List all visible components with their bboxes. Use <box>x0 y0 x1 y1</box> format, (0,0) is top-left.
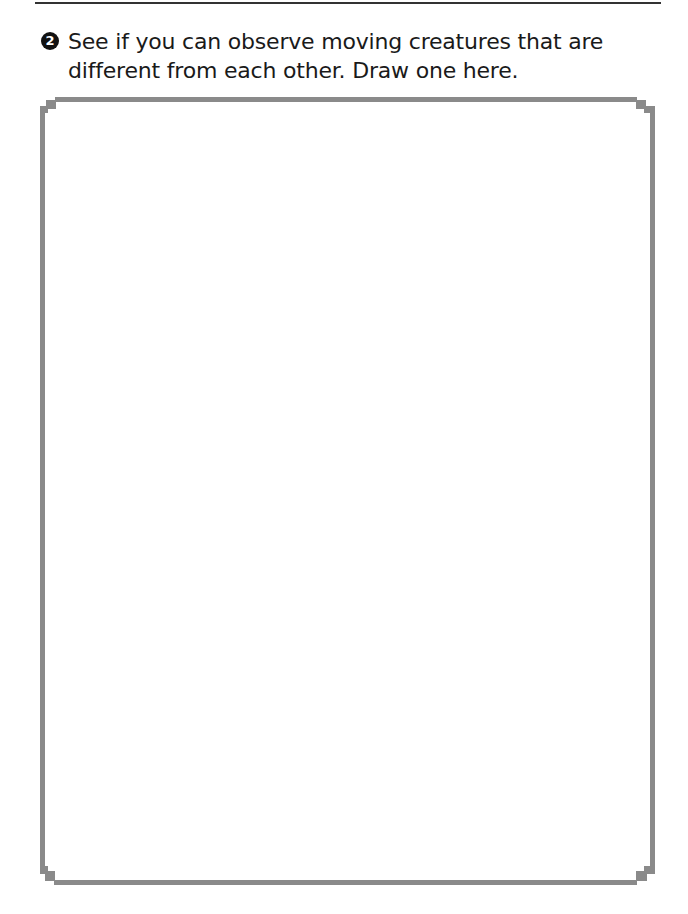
frame-top-border <box>55 97 637 102</box>
activity-prompt: 2 See if you can observe moving creature… <box>41 27 661 85</box>
corner-top-right <box>636 100 646 109</box>
drawing-area-frame[interactable] <box>0 0 688 914</box>
corner-bottom-right-step <box>636 871 647 881</box>
frame-bottom-border <box>54 880 637 885</box>
frame-right-border <box>650 112 655 868</box>
corner-bottom-right <box>644 866 655 874</box>
corner-top-left-step <box>40 106 48 113</box>
corner-bottom-left <box>40 866 48 874</box>
corner-bottom-left-step <box>45 871 55 881</box>
top-divider-line <box>35 2 661 4</box>
frame-left-border <box>40 112 45 868</box>
corner-top-right-step <box>644 106 655 113</box>
corner-top-left <box>46 100 56 109</box>
prompt-text: See if you can observe moving creatures … <box>68 27 661 85</box>
step-number-badge: 2 <box>41 32 59 50</box>
